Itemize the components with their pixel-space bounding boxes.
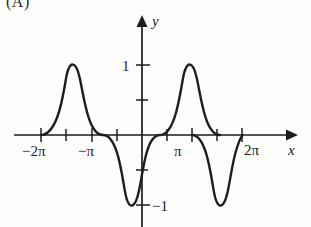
y-axis-arrowhead (137, 15, 148, 27)
sine-curve-plot: −2π −π π 2π 1 −1 x y (0, 0, 311, 227)
y-tick-label-neg-1: −1 (152, 198, 168, 214)
x-tick-label-pi: π (174, 143, 182, 159)
x-axis-label: x (287, 142, 295, 158)
y-axis-label: y (150, 13, 159, 29)
figure-container: (A) (0, 0, 311, 227)
x-tick-label-2pi: 2π (244, 142, 260, 158)
sine-curve-final-lobe (192, 135, 243, 206)
x-tick-label-neg-pi: −π (78, 143, 94, 159)
x-tick-label-neg-2pi: −2π (22, 143, 46, 159)
y-tick-label-1: 1 (122, 58, 130, 74)
x-axis-arrowhead (286, 130, 298, 141)
